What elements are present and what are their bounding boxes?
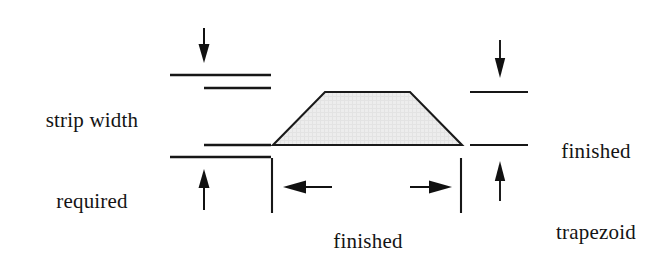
trapezoid-shape — [273, 92, 462, 145]
strip-width-label: strip width required (add ½" to finished… — [18, 52, 166, 267]
strip-width-label-line-2: required — [18, 188, 166, 215]
trapezoid-height-down-arrow-icon — [495, 40, 505, 78]
trapezoid-height-label-line-2: trapezoid — [536, 219, 655, 246]
strip-width-down-arrow-icon — [199, 28, 210, 63]
base-width-label-line-1: finished — [288, 228, 448, 255]
trapezoid-height-label-line-1: finished — [536, 138, 655, 165]
strip-width-label-line-1: strip width — [18, 107, 166, 134]
strip-width-up-arrow-icon — [199, 169, 210, 210]
trapezoid-height-up-arrow-icon — [495, 161, 505, 201]
trapezoid-height-label: finished trapezoid height — [536, 83, 655, 267]
base-width-label: finished trapezoid base width — [288, 173, 448, 267]
trapezoid-measurement-diagram: strip width required (add ½" to finished… — [0, 0, 655, 267]
